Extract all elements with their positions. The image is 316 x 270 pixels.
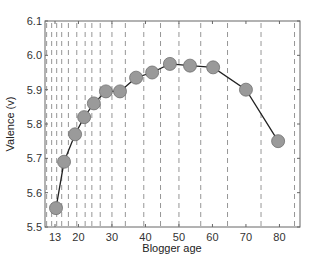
data-point-marker (78, 111, 91, 124)
x-tick-label: 80 (273, 231, 285, 243)
data-point-marker (272, 135, 285, 148)
x-tick-label: 70 (240, 231, 252, 243)
data-point-marker (130, 71, 143, 84)
y-tick-label: 5.8 (27, 118, 42, 130)
dashed-gridlines (47, 23, 295, 226)
y-axis-ticks: 5.55.65.75.85.96.06.1 (27, 15, 300, 233)
data-point-marker (87, 97, 100, 110)
x-tick-label: 60 (206, 231, 218, 243)
data-point-marker (69, 128, 82, 141)
x-axis-label: Blogger age (142, 242, 201, 254)
x-tick-label: 30 (106, 231, 118, 243)
data-point-marker (50, 202, 63, 215)
y-tick-label: 5.7 (27, 152, 42, 164)
data-point-marker (99, 85, 112, 98)
data-point-marker (163, 57, 176, 70)
y-tick-label: 5.5 (27, 221, 42, 233)
y-tick-label: 6.1 (27, 15, 42, 27)
x-tick-label: 20 (72, 231, 84, 243)
data-point-marker (146, 66, 159, 79)
y-tick-label: 6.0 (27, 49, 42, 61)
line-chart: 5.55.65.75.85.96.06.1 1320304050607080 B… (0, 0, 316, 270)
y-tick-label: 5.9 (27, 84, 42, 96)
data-point-marker (239, 83, 252, 96)
y-axis-label: Valence (v) (4, 97, 16, 152)
x-tick-label: 13 (49, 231, 61, 243)
data-point-marker (184, 59, 197, 72)
plot-frame (45, 21, 300, 227)
data-point-marker (113, 85, 126, 98)
data-point-marker (207, 61, 220, 74)
y-tick-label: 5.6 (27, 187, 42, 199)
x-axis-ticks: 1320304050607080 (49, 21, 286, 243)
data-point-marker (58, 155, 71, 168)
